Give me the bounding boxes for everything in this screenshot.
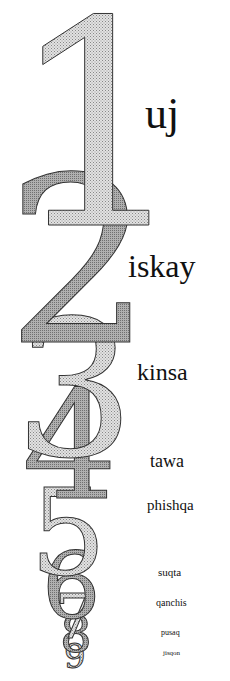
word-tawa: tawa: [150, 452, 184, 470]
word-jisqon: jisqon: [163, 650, 180, 657]
stacked-numerals: 9 8 7 6 5 4 3 2 1: [0, 0, 230, 681]
word-suqta: suqta: [158, 567, 181, 578]
word-uj: uj: [145, 92, 179, 136]
word-kinsa: kinsa: [137, 360, 188, 384]
word-qanchis: qanchis: [156, 598, 187, 608]
word-pusaq: pusaq: [161, 629, 180, 637]
numbers-poster: 9 8 7 6 5 4 3 2 1 uj iskay kinsa tawa ph…: [0, 0, 230, 681]
word-phishqa: phishqa: [147, 498, 194, 513]
word-iskay: iskay: [128, 250, 196, 282]
